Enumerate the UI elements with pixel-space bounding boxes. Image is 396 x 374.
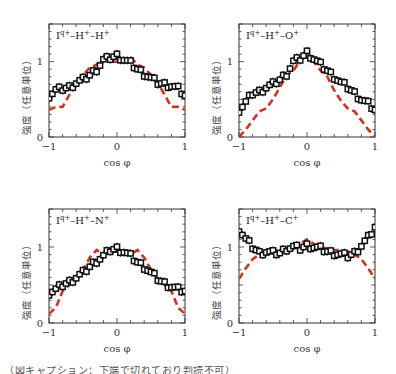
x-tick-label: 1 [372, 141, 378, 152]
x-tick-label: −1 [232, 327, 247, 338]
chart-panel-bottom-right: −10101cos φ強度（任意単位）Iq+–H+–C+ [211, 209, 378, 354]
x-tick-label: 0 [304, 327, 310, 338]
panel-title: Iq+–H+–H+ [56, 29, 110, 41]
y-axis-label: 強度（任意単位） [21, 55, 32, 135]
y-tick-label: 1 [37, 56, 43, 67]
y-tick-label: 1 [37, 242, 43, 253]
x-tick-label: −1 [42, 141, 57, 152]
panel-title: Iq+–H+–N+ [56, 214, 110, 226]
x-axis-label: cos φ [294, 343, 321, 354]
y-tick-label: 1 [227, 56, 233, 67]
y-tick-label: 0 [37, 318, 43, 329]
plot-frame [49, 209, 185, 323]
x-tick-label: 0 [114, 327, 120, 338]
x-axis-label: cos φ [104, 343, 131, 354]
y-tick-label: 0 [227, 132, 233, 143]
x-tick-label: 0 [304, 141, 310, 152]
y-tick-label: 0 [37, 132, 43, 143]
experiment-points [46, 50, 187, 102]
x-tick-label: 0 [114, 141, 120, 152]
y-tick-label: 0 [227, 318, 233, 329]
x-tick-label: −1 [42, 327, 57, 338]
y-axis-label: 強度（任意単位） [211, 240, 222, 320]
chart-panel-bottom-left: −10101cos φ強度（任意単位）Iq+–H+–N+ [21, 209, 188, 354]
x-axis-label: cos φ [104, 157, 131, 168]
x-tick-label: 1 [372, 327, 378, 338]
y-tick-label: 1 [227, 242, 233, 253]
chart-panel-top-left: −10101cos φ強度（任意単位）Iq+–H+–H+ [21, 24, 188, 168]
plot-frame [239, 209, 375, 323]
experiment-points [236, 47, 377, 117]
x-tick-label: 1 [182, 327, 188, 338]
x-axis-label: cos φ [294, 157, 321, 168]
y-axis-label: 強度（任意単位） [21, 240, 32, 320]
panel-title: Iq+–H+–C+ [246, 214, 299, 226]
x-tick-label: 1 [182, 141, 188, 152]
figure-caption-partial: （図キャプション：下端で切れており判読不可） [4, 366, 394, 374]
y-axis-label: 強度（任意単位） [211, 55, 222, 135]
chart-panel-top-right: −10101cos φ強度（任意単位）Iq+–H+–O+ [211, 24, 378, 168]
panel-title: Iq+–H+–O+ [246, 29, 299, 41]
x-tick-label: −1 [232, 141, 247, 152]
